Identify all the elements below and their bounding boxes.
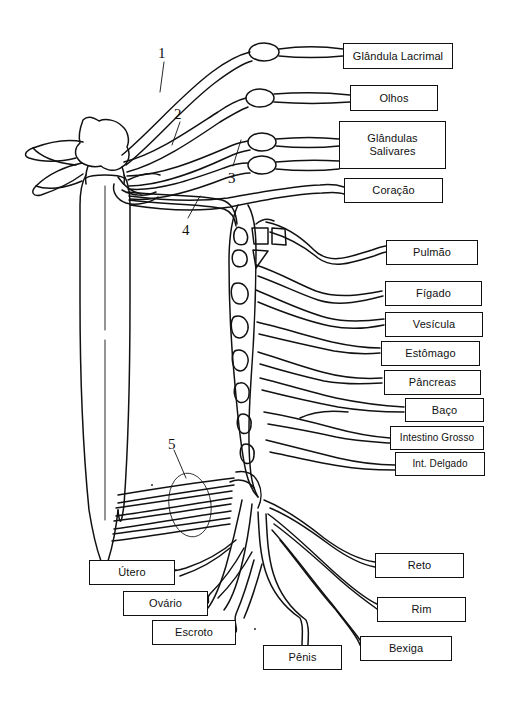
callout-2: 2 <box>174 107 182 122</box>
label-intestino-grosso[interactable]: Intestino Grosso <box>390 426 484 450</box>
label-reto[interactable]: Reto <box>375 553 464 578</box>
label-glandulas-salivares[interactable]: Glândulas Salivares <box>339 121 446 169</box>
label-penis[interactable]: Pênis <box>263 645 342 670</box>
label-olhos[interactable]: Olhos <box>350 85 438 111</box>
sacral-plexus <box>112 470 377 645</box>
diagram-page: 1 2 3 4 5 Glândula Lacrimal Olhos Glându… <box>0 0 507 707</box>
spinal-cord <box>80 175 130 565</box>
label-pulmao[interactable]: Pulmão <box>386 240 478 265</box>
label-vesicula[interactable]: Vesícula <box>385 312 483 337</box>
label-coracao[interactable]: Coração <box>344 178 443 203</box>
label-estomago[interactable]: Estômago <box>381 341 480 366</box>
label-rim[interactable]: Rim <box>377 597 466 622</box>
label-glandula-lacrimal[interactable]: Glândula Lacrimal <box>343 43 453 69</box>
callout-4: 4 <box>182 223 190 238</box>
label-pancreas[interactable]: Pâncreas <box>384 370 481 395</box>
callout-3: 3 <box>228 171 236 186</box>
callout-1: 1 <box>158 46 166 61</box>
label-int-delgado[interactable]: Int. Delgado <box>395 452 485 476</box>
label-ovario[interactable]: Ovário <box>123 591 208 616</box>
label-baco[interactable]: Baço <box>405 398 484 422</box>
callout-5: 5 <box>168 437 176 452</box>
label-figado[interactable]: Fígado <box>385 281 482 306</box>
label-escroto[interactable]: Escroto <box>152 620 236 645</box>
label-bexiga[interactable]: Bexiga <box>360 636 452 661</box>
label-utero[interactable]: Útero <box>89 560 175 585</box>
